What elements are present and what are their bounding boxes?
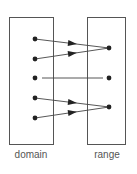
domain-point [33,96,38,101]
mapping-diagram: domain range [0,0,137,174]
arrowhead-icon [68,50,78,57]
domain-points [33,37,38,121]
domain-point [33,76,38,81]
range-label: range [94,149,120,160]
domain-point [33,116,38,121]
range-set-box [88,18,126,145]
domain-label: domain [15,149,48,160]
domain-set-box [10,18,54,145]
domain-point [33,37,38,42]
domain-point [33,57,38,62]
mapping-arrows [35,39,109,118]
arrowhead-icon [68,109,78,116]
range-point [107,76,112,81]
range-point [107,46,112,51]
range-points [107,46,112,110]
range-point [107,105,112,110]
